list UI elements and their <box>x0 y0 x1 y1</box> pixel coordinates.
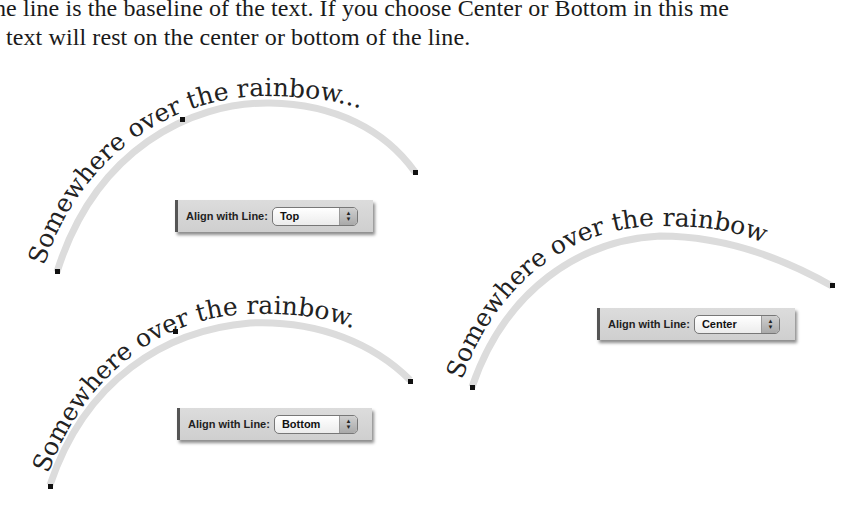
curve-illustrations: Somewhere over the rainbow... Somewhere … <box>0 0 866 510</box>
example-top: Somewhere over the rainbow... <box>22 73 418 274</box>
align-with-line-popup[interactable]: Top ▲▼ <box>272 207 358 226</box>
popup-value: Top <box>280 210 299 222</box>
end-handle[interactable] <box>830 283 835 288</box>
align-with-line-label: Align with Line: <box>186 210 268 222</box>
up-down-chevron-icon: ▲▼ <box>339 416 357 433</box>
align-panel-bottom: Align with Line: Bottom ▲▼ <box>177 408 372 440</box>
control-handle[interactable] <box>180 117 185 122</box>
end-handle[interactable] <box>408 379 413 384</box>
curve-text: Somewhere over the rainbow... <box>22 73 367 268</box>
up-down-chevron-icon: ▲▼ <box>761 316 779 333</box>
popup-value: Bottom <box>282 418 321 430</box>
align-panel-top: Align with Line: Top ▲▼ <box>175 200 373 232</box>
align-with-line-popup[interactable]: Center ▲▼ <box>694 315 780 334</box>
align-with-line-label: Align with Line: <box>188 418 270 430</box>
start-handle[interactable] <box>470 385 475 390</box>
curve-path[interactable] <box>50 323 410 485</box>
end-handle[interactable] <box>413 170 418 175</box>
popup-value: Center <box>702 318 737 330</box>
start-handle[interactable] <box>48 484 53 489</box>
align-panel-center: Align with Line: Center ▲▼ <box>597 308 795 340</box>
control-handle[interactable] <box>173 329 178 334</box>
align-with-line-label: Align with Line: <box>608 318 690 330</box>
up-down-chevron-icon: ▲▼ <box>339 208 357 225</box>
start-handle[interactable] <box>55 269 60 274</box>
align-with-line-popup[interactable]: Bottom ▲▼ <box>274 415 358 434</box>
